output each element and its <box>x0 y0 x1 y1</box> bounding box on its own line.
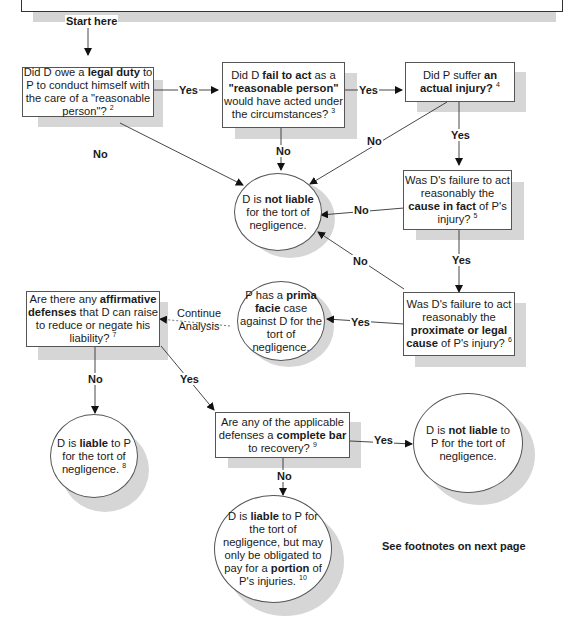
edge-q4-yes: Yes <box>451 254 472 266</box>
edge-q1-yes: Yes <box>178 84 199 96</box>
not-liable-text: D is not liable for the tort of negligen… <box>235 193 321 232</box>
question-cause-in-fact: Was D's failure to act reasonably the ca… <box>403 170 512 230</box>
result-liable: D is liable to P for the tort of neglige… <box>50 414 138 498</box>
result-not-liable: D is not liable for the tort of negligen… <box>234 173 322 251</box>
question-complete-bar: Are any of the applicable defenses a com… <box>215 412 350 458</box>
edge-q5-yes: Yes <box>350 316 371 328</box>
liable-text: D is liable to P for the tort of neglige… <box>51 437 137 476</box>
edge-q2-yes: Yes <box>358 84 379 96</box>
result-partial-liability: D is liable to P for the tort of neglige… <box>214 495 332 603</box>
edge-q6-yes: Yes <box>179 373 200 385</box>
q7-text: Are any of the applicable defenses a com… <box>216 416 349 455</box>
prima-facie-text: P has a prima facie case against D for t… <box>238 289 324 354</box>
continue-analysis-label: Continue Analysis <box>172 307 226 333</box>
not-liable-bar-text: D is not liable to P for the tort of neg… <box>414 424 522 463</box>
edge-q7-yes: Yes <box>373 434 394 446</box>
q4-text: Was D's failure to act reasonably the ca… <box>404 174 511 226</box>
question-legal-duty: Did D owe a legal duty to P to conduct h… <box>22 67 154 117</box>
question-affirmative-defenses: Are there any affirmative defenses that … <box>26 291 160 347</box>
result-prima-facie: P has a prima facie case against D for t… <box>237 281 325 361</box>
partial-text: D is liable to P for the tort of neglige… <box>215 510 331 588</box>
q6-text: Are there any affirmative defenses that … <box>27 293 159 345</box>
question-fail-to-act: Did D fail to act as a "reasonable perso… <box>222 62 345 128</box>
q3-text: Did P suffer an actual injury? 4 <box>406 69 514 95</box>
question-actual-injury: Did P suffer an actual injury? 4 <box>405 62 515 102</box>
q2-text: Did D fail to act as a "reasonable perso… <box>223 69 344 121</box>
edge-q3-yes: Yes <box>450 129 471 141</box>
start-label: Start here <box>65 15 118 27</box>
edge-q5-no: No <box>352 255 369 267</box>
q1-text: Did D owe a legal duty to P to conduct h… <box>23 66 153 118</box>
edge-q4-no: No <box>353 204 370 216</box>
q5-text: Was D's failure to act reasonably the pr… <box>404 298 514 350</box>
edge-q7-no: No <box>276 470 293 482</box>
question-proximate-cause: Was D's failure to act reasonably the pr… <box>403 292 515 356</box>
result-not-liable-bar: D is not liable to P for the tort of neg… <box>413 393 523 493</box>
footnotes-note: See footnotes on next page <box>381 540 527 552</box>
edge-q6-no: No <box>87 373 104 385</box>
edge-q1-no: No <box>92 148 109 160</box>
edge-q3-no: No <box>366 135 383 147</box>
edge-q2-no: No <box>275 145 292 157</box>
